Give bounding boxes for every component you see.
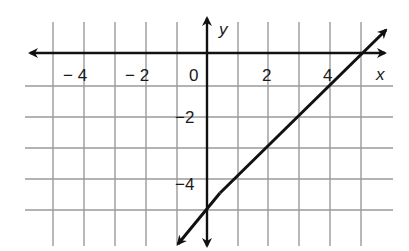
x-tick-label: 0 [189, 66, 198, 85]
x-tick-label: − 2 [125, 66, 149, 85]
x-axis-label: x [375, 65, 385, 84]
coordinate-graph: y x − 4 − 2 0 2 4 −2 −4 [0, 0, 409, 251]
y-tick-label: −2 [175, 108, 194, 127]
y-axis-label: y [218, 20, 229, 39]
grid [25, 22, 393, 246]
x-tick-label: − 4 [63, 66, 87, 85]
x-tick-label: 2 [262, 66, 271, 85]
y-tick-label: −4 [175, 175, 194, 194]
x-tick-label: 4 [323, 66, 332, 85]
